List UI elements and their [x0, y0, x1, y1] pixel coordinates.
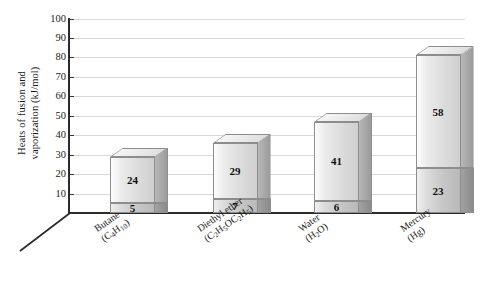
- y-axis-tick: [70, 19, 74, 20]
- y-axis-tick: [70, 38, 74, 39]
- y-axis-tick-label: 10: [40, 189, 66, 200]
- gridline: [70, 116, 465, 117]
- bar-chart: Heats of fusion and vaporization (kJ/mol…: [0, 0, 483, 295]
- gridline: [70, 77, 465, 78]
- y-axis-tick: [70, 116, 74, 117]
- y-axis-tick-label: 30: [40, 150, 66, 161]
- y-axis-tick: [70, 174, 74, 175]
- y-axis-tick-label: 70: [40, 72, 66, 83]
- bar-segment-vaporization: 58: [416, 55, 461, 168]
- y-axis-title-line1: Heats of fusion and: [16, 33, 29, 193]
- y-axis-tick-label: 90: [40, 33, 66, 44]
- bar-value-vaporization: 41: [315, 155, 358, 167]
- y-axis-tick: [70, 135, 74, 136]
- y-axis-tick: [70, 77, 74, 78]
- bar-side-face-vaporization: [461, 46, 474, 168]
- y-axis-tick-label: 60: [40, 91, 66, 102]
- gridline: [70, 38, 465, 39]
- y-axis-tick: [70, 57, 74, 58]
- y-axis-tick-label: 20: [40, 169, 66, 180]
- y-axis-tick-label: 100: [40, 14, 66, 25]
- y-axis-line: [68, 18, 70, 214]
- y-axis-tick-label: 80: [40, 52, 66, 63]
- gridline: [70, 19, 465, 20]
- y-axis-tick-label: 40: [40, 130, 66, 141]
- bar-value-vaporization: 58: [417, 106, 460, 118]
- bar-value-vaporization: 29: [214, 165, 257, 177]
- gridline: [70, 96, 465, 97]
- y-axis-tick: [70, 155, 74, 156]
- y-axis-tick-label: 50: [40, 111, 66, 122]
- bar-value-vaporization: 24: [111, 174, 154, 186]
- axis-depth-line: [18, 211, 72, 253]
- y-axis-tick: [70, 96, 74, 97]
- gridline: [70, 57, 465, 58]
- y-axis-tick: [70, 194, 74, 195]
